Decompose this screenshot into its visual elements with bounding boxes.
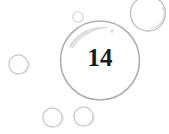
bubble-vector-art <box>0 0 169 134</box>
bottom-right-bubble <box>74 107 93 126</box>
main-bubble-speck-highlight <box>110 29 113 32</box>
top-right-bubble <box>131 0 166 31</box>
bubble-illustration-canvas: 14 <box>0 0 169 134</box>
main-bubble <box>61 21 140 100</box>
tiny-top-bubble <box>73 12 83 22</box>
bottom-left-bubble <box>43 108 62 127</box>
left-bubble <box>9 55 28 74</box>
